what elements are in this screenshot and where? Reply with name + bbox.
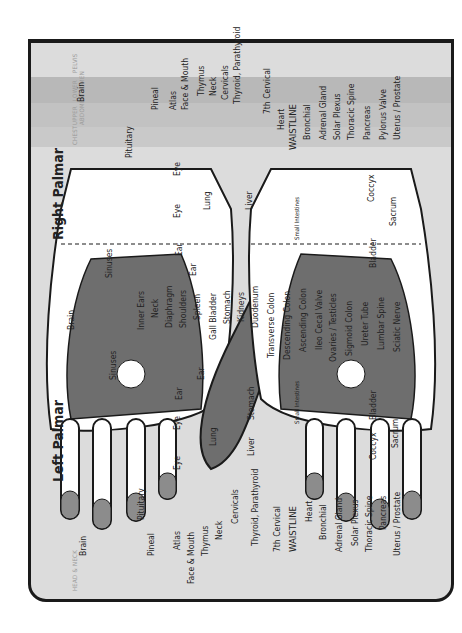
c-label-ileo-cecal-valve: Ileo Cecal Valve	[314, 290, 324, 350]
r-label-heart: Heart	[276, 109, 286, 130]
l-label-cervicals: Cervicals	[230, 489, 240, 524]
c-label-ureter-tube: Ureter Tube	[360, 302, 370, 346]
l-label-thyroid: Thyroid, Parathyroid	[250, 469, 260, 546]
r-label-7th-cervical: 7th Cervical	[262, 68, 272, 114]
r-label-adrenal-gland: Adrenal Gland	[318, 86, 328, 140]
c-label-ovaries-testicles: Ovaries / Testicles	[328, 293, 338, 362]
r-label-coccyx: Coccyx	[366, 175, 376, 202]
r-label-solar-plexus: Solar Plexus	[332, 93, 342, 140]
c-label-ascending-colon: Ascending Colon	[298, 288, 308, 352]
l-label-atlas: Atlas	[172, 531, 182, 550]
r-label-pineal: Pineal	[150, 87, 160, 110]
r-label-thoracic-spine: Thoracic Spine	[346, 84, 356, 140]
c-label-spleen: Spleen	[192, 294, 202, 320]
l-label-stomach: Stomach	[246, 386, 256, 420]
c-label-stomach: Stomach	[222, 290, 232, 324]
l-label-pancreas: Pancreas	[378, 496, 388, 530]
r-label-liver: Liver	[244, 191, 254, 210]
l-label-face-mouth: Face & Mouth	[186, 532, 196, 584]
r-label-waistline: WAISTLINE	[288, 104, 298, 150]
l-label-thoracic-spine: Thoracic Spine	[364, 496, 374, 552]
c-label-duodenum: Duodenum	[250, 286, 260, 328]
l-label-neck: Neck	[214, 521, 224, 540]
l-label-ear-2: Ear	[196, 367, 206, 380]
r-label-bladder: Bladder	[368, 238, 378, 268]
r-label-face-mouth: Face & Mouth	[180, 58, 190, 110]
l-label-ear-1: Ear	[174, 387, 184, 400]
r-label-brain-2: Brain	[66, 310, 76, 330]
c-label-lumbar-spine: Lumbar Spine	[376, 297, 386, 350]
r-label-brain: Brain	[76, 82, 86, 102]
l-label-coccyx: Coccyx	[368, 433, 378, 460]
c-label-sciatic-nerve: Sciatic Nerve	[392, 302, 402, 352]
r-label-pylorus-valve: Pylorus Valve	[378, 89, 388, 140]
c-label-sigmoid-colon: Sigmoid Colon	[344, 301, 354, 356]
r-label-atlas: Atlas	[168, 91, 178, 110]
l-label-liver: Liver	[246, 437, 256, 456]
r-label-uterus-prostate: Uterus / Prostate	[392, 76, 402, 140]
r-label-sacrum: Sacrum	[388, 197, 398, 226]
r-label-pituitary: Pituitary	[124, 126, 134, 158]
l-label-thymus: Thymus	[200, 526, 210, 556]
l-label-lung: Lung	[208, 427, 218, 446]
c-label-inner-ears: Inner Ears	[136, 291, 146, 330]
c-label-kidneys: Kidneys	[236, 292, 246, 322]
l-label-brain: Brain	[78, 536, 88, 556]
c-label-descending-colon: Descending Colon	[282, 291, 292, 360]
right-palmar-hand	[249, 169, 435, 529]
l-label-sacrum: Sacrum	[390, 419, 400, 448]
title-left-palmar-portrait: Left Palmar	[50, 400, 66, 482]
r-label-ear-1: Ear	[174, 243, 184, 256]
r-label-bronchial: Bronchial	[302, 104, 312, 140]
r-label-sinuses: Sinuses	[104, 249, 114, 278]
left-palmar-hand	[47, 169, 271, 529]
c-label-diaphragm: Diaphragm	[164, 285, 174, 328]
c-label-gall-bladder: Gall Bladder	[208, 293, 218, 340]
reflexology-chart: HEAD & NECK CHEST UPPER ABDOMEN LOWER AB…	[28, 42, 452, 602]
l-label-7th-cervical: 7th Cervical	[272, 506, 282, 552]
l-label-pituitary: Pituitary	[136, 488, 146, 520]
l-label-bronchial: Bronchial	[318, 504, 328, 540]
c-label-neck: Neck	[150, 299, 160, 318]
r-label-lung: Lung	[202, 191, 212, 210]
r-label-neck: Neck	[208, 77, 218, 96]
l-label-small-intestines: Small Intestines	[292, 381, 302, 424]
r-label-eye-2: Eye	[172, 204, 182, 218]
r-label-ear-2: Ear	[188, 263, 198, 276]
r-label-cervicals: Cervicals	[220, 65, 230, 100]
r-label-eye-1: Eye	[172, 162, 182, 176]
l-label-adrenal-gland: Adrenal Gland	[334, 498, 344, 552]
r-label-thyroid: Thyroid, Parathyroid	[232, 27, 242, 104]
r-label-small-intestines: Small Intestines	[292, 197, 302, 240]
l-label-uterus-prostate: Uterus / Prostate	[392, 492, 402, 556]
l-label-heart: Heart	[304, 501, 314, 522]
l-label-solar-plexus: Solar Plexus	[350, 499, 360, 546]
r-label-thymus: Thymus	[196, 66, 206, 96]
l-label-sinuses: Sinuses	[108, 351, 118, 380]
title-right-palmar: Right Palmar	[50, 148, 66, 240]
l-label-bladder: Bladder	[368, 390, 378, 420]
l-label-eye-2: Eye	[172, 416, 182, 430]
l-label-pineal: Pineal	[146, 533, 156, 556]
l-label-waistline: WAISTLINE	[288, 506, 298, 552]
r-label-pancreas: Pancreas	[362, 106, 372, 140]
l-label-eye-1: Eye	[172, 456, 182, 470]
c-label-shoulders: Shoulders	[178, 290, 188, 328]
c-label-transverse-colon: Transverse Colon	[266, 293, 276, 358]
